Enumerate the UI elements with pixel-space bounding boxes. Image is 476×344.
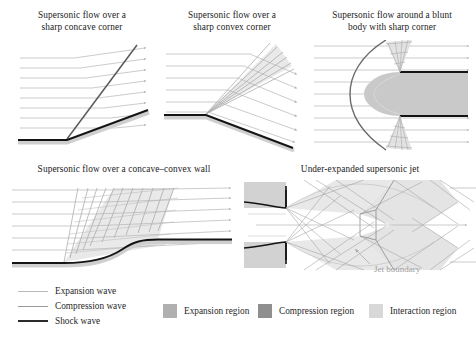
legend-item-compression-region: Compression region	[258, 304, 354, 318]
panel-title-underexpanded-jet: Under-expanded supersonic jet	[244, 164, 476, 176]
shock-wave-line	[67, 45, 137, 139]
legend-label-expansion-region: Expansion region	[184, 306, 249, 316]
figure-concave-convex-wall	[6, 182, 242, 274]
panel-convex-corner: Supersonic flow over a sharp convex corn…	[158, 4, 306, 152]
legend-label-expansion-wave: Expansion wave	[55, 286, 116, 296]
panel-title-concave-convex-wall: Supersonic flow over a concave–convex wa…	[6, 164, 242, 176]
compression-wave-swatch	[18, 306, 48, 307]
legend-label-compression-wave: Compression wave	[55, 301, 126, 311]
legend-label-compression-region: Compression region	[279, 306, 354, 316]
panel-concave-convex-wall: Supersonic flow over a concave–convex wa…	[6, 160, 242, 282]
panel-underexpanded-jet: Under-expanded supersonic jet	[244, 160, 476, 282]
legend-label-interaction-region: Interaction region	[390, 306, 456, 316]
compression-region-swatch	[258, 304, 272, 318]
panel-title-convex-corner: Supersonic flow over a sharp convex corn…	[158, 10, 306, 33]
interaction-region-swatch	[369, 304, 383, 318]
panel-title-blunt-body: Supersonic flow around a blunt body with…	[308, 10, 476, 33]
panel-title-concave-corner: Supersonic flow over a sharp concave cor…	[8, 10, 156, 33]
legend-label-shock-wave: Shock wave	[55, 316, 100, 326]
legend-item-expansion-region: Expansion region	[163, 304, 249, 318]
expansion-region-swatch	[163, 304, 177, 318]
body-fill	[400, 72, 468, 116]
legend-item-interaction-region: Interaction region	[369, 304, 456, 318]
legend: Expansion wave Compression wave Shock wa…	[0, 282, 476, 344]
panel-blunt-body: Supersonic flow around a blunt body with…	[308, 4, 476, 152]
panel-concave-corner: Supersonic flow over a sharp concave cor…	[8, 4, 156, 152]
legend-item-shock-wave: Shock wave	[18, 316, 100, 326]
figure-blunt-body	[308, 40, 476, 152]
figure-concave-corner	[8, 42, 156, 152]
shock-wave-swatch	[18, 320, 48, 322]
expansion-wave-swatch	[18, 291, 48, 292]
jet-boundary-label: Jet boundary	[374, 264, 421, 274]
legend-item-expansion-wave: Expansion wave	[18, 286, 116, 296]
figure-underexpanded-jet: Jet boundary	[244, 180, 476, 280]
legend-item-compression-wave: Compression wave	[18, 301, 126, 311]
figure-convex-corner	[158, 42, 306, 154]
